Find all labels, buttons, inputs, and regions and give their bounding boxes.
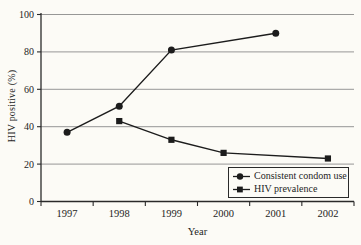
- y-tick-label: 100: [19, 9, 34, 20]
- x-tick-label: 1999: [161, 208, 182, 219]
- chart-figure: 020406080100199719981999200020012002 HIV…: [0, 0, 361, 245]
- data-point-hiv-prevalence: [168, 137, 174, 143]
- x-tick-label: 2001: [265, 208, 286, 219]
- circle-line-marker-icon: [233, 172, 250, 181]
- y-tick-label: 80: [24, 46, 34, 57]
- y-tick-label: 0: [29, 196, 34, 207]
- legend-item-consistent-condom-use: Consistent condom use: [233, 170, 346, 182]
- data-point-consistent-condom-use: [116, 103, 123, 110]
- square-line-marker-icon: [233, 185, 250, 194]
- data-point-hiv-prevalence: [116, 118, 122, 124]
- y-tick-label: 20: [24, 159, 34, 170]
- y-tick-label: 60: [24, 84, 34, 95]
- x-tick-label: 1997: [57, 208, 78, 219]
- data-point-consistent-condom-use: [168, 47, 175, 54]
- y-axis-title: HIV positive (%): [6, 70, 17, 142]
- x-tick-label: 2002: [317, 208, 338, 219]
- x-tick-label: 2000: [213, 208, 234, 219]
- y-tick-label: 40: [24, 121, 34, 132]
- data-point-consistent-condom-use: [64, 129, 71, 136]
- data-point-consistent-condom-use: [272, 30, 279, 37]
- legend-item-hiv-prevalence: HIV prevalence: [233, 183, 346, 195]
- legend: Consistent condom use HIV prevalence: [228, 167, 349, 198]
- chart-canvas: 020406080100199719981999200020012002: [0, 0, 361, 245]
- legend-label: HIV prevalence: [254, 183, 317, 195]
- x-axis-title: Year: [41, 226, 354, 237]
- x-tick-label: 1998: [109, 208, 130, 219]
- data-point-hiv-prevalence: [220, 150, 226, 156]
- data-point-hiv-prevalence: [325, 155, 331, 161]
- legend-label: Consistent condom use: [254, 170, 347, 182]
